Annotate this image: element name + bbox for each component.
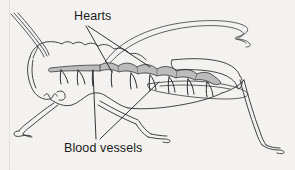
antenna-2 [14, 13, 47, 56]
blood-vessel [149, 75, 150, 91]
antennae-group [11, 13, 49, 58]
blood-vessel [206, 82, 207, 97]
head-cheek-line [32, 60, 36, 88]
hindleg-tarsus-2 [266, 145, 280, 148]
head-outline [28, 57, 50, 99]
mouthparts [44, 94, 57, 99]
blood-vessel [111, 71, 112, 87]
figure-canvas: Hearts Blood vessels [0, 0, 295, 170]
grasshopper-diagram [0, 0, 295, 170]
leader-blood-vessels-2 [100, 82, 159, 139]
hindwing-lower-vein [160, 85, 230, 89]
antenna-3 [18, 13, 49, 55]
hindleg-tibia-2 [244, 80, 266, 145]
midleg-tarsus [148, 137, 170, 143]
label-blood-vessels: Blood vessels [64, 141, 142, 155]
foreleg-upper [19, 103, 54, 131]
midleg-tarsus-2 [151, 134, 167, 136]
abdomen-underside [128, 93, 222, 109]
blood-vessel-arch [207, 82, 213, 96]
hindwing-lower [148, 81, 249, 99]
blood-vessel-arch [169, 77, 175, 92]
foreleg-lower [23, 105, 58, 134]
forewing-upper-inner [110, 26, 243, 63]
leader-blood-vessels-1 [93, 71, 96, 139]
blood-vessel-arch [131, 73, 137, 88]
blood-vessel-arch [61, 70, 68, 83]
midleg-tibia-2 [139, 121, 151, 134]
forewing-upper-tip-curl [236, 39, 250, 47]
blood-vessel-arch [77, 70, 78, 85]
labrum [57, 91, 65, 100]
antenna-1 [11, 14, 44, 57]
blood-vessel [187, 79, 188, 95]
blood-vessel-arch [60, 70, 61, 84]
blood-vessel-arch [130, 73, 131, 89]
hindleg-tarsus [262, 145, 284, 154]
leader-lines-group [86, 26, 159, 139]
foreleg-tarsus [14, 131, 31, 136]
label-hearts: Hearts [74, 9, 111, 23]
blood-vessel-arch [78, 70, 85, 84]
